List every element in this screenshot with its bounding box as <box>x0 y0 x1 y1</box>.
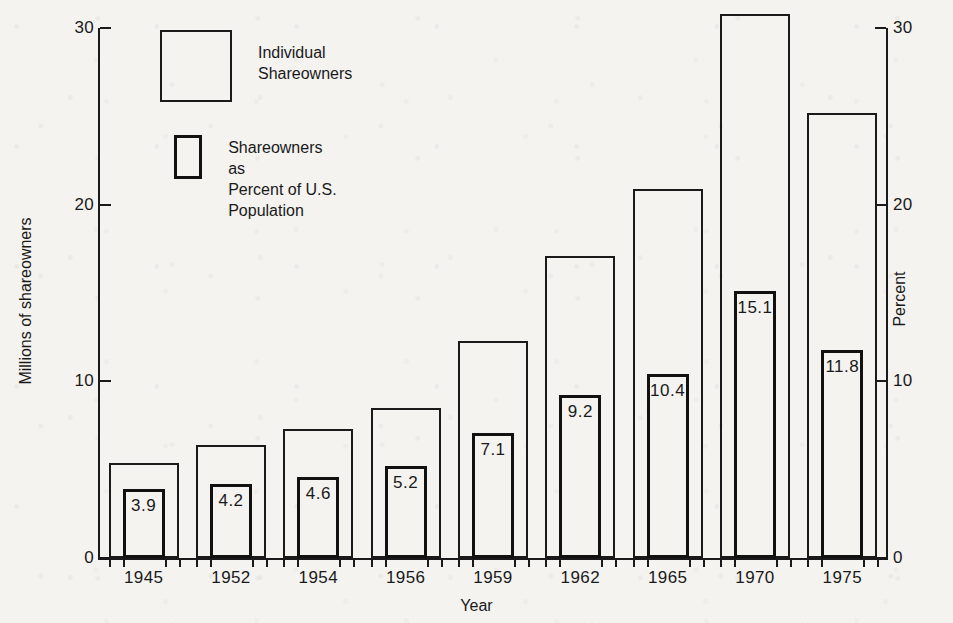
x-axis-tick <box>109 558 111 567</box>
x-axis-tick <box>385 558 387 567</box>
bar-shareowners-percent <box>821 350 863 558</box>
y-axis-left-tick <box>100 204 111 206</box>
y-axis-left-title: Millions of shareowners <box>17 201 35 401</box>
x-axis-tick <box>559 558 561 567</box>
legend-label-individual-shareowners: Individual Shareowners <box>258 30 352 84</box>
x-axis-category-label: 1956 <box>361 568 451 588</box>
legend-item-shareowners-percent: Shareowners as Percent of U.S. Populatio… <box>160 135 338 221</box>
y-axis-left-tick-label: 0 <box>60 549 94 566</box>
y-axis-right-title: Percent <box>891 239 909 359</box>
x-axis-tick <box>179 558 181 567</box>
bar-value-label: 10.4 <box>634 381 702 401</box>
x-axis-title: Year <box>0 597 953 615</box>
bar-value-label: 4.2 <box>197 491 265 511</box>
x-axis-category-label: 1970 <box>710 568 800 588</box>
y-axis-right-tick-label: 10 <box>893 372 913 389</box>
x-axis-tick <box>458 558 460 567</box>
y-axis-left-tick-label: 30 <box>60 19 94 36</box>
x-axis-tick <box>790 558 792 567</box>
y-axis-right-tick <box>875 27 886 29</box>
x-axis-category-label: 1954 <box>273 568 363 588</box>
y-axis-left-tick-label: 20 <box>60 196 94 213</box>
legend-item-individual-shareowners: Individual Shareowners <box>160 30 352 102</box>
x-axis-tick <box>472 558 474 567</box>
x-axis-category-label: 1959 <box>448 568 538 588</box>
x-axis-tick <box>427 558 429 567</box>
x-axis-tick <box>266 558 268 567</box>
x-axis-tick <box>210 558 212 567</box>
y-axis-left-tick-label: 10 <box>60 372 94 389</box>
y-axis-right-tick-label: 20 <box>893 196 913 213</box>
x-axis-tick <box>647 558 649 567</box>
y-axis-left-line <box>98 28 100 560</box>
x-axis-category-label: 1945 <box>99 568 189 588</box>
x-axis-tick <box>734 558 736 567</box>
bar-value-label: 11.8 <box>808 357 876 377</box>
x-axis-tick <box>353 558 355 567</box>
x-axis-line <box>98 558 888 560</box>
legend-swatch-icon-shareowners-percent <box>174 135 202 179</box>
x-axis-tick <box>720 558 722 567</box>
x-axis-tick <box>703 558 705 567</box>
y-axis-left-tick <box>100 380 111 382</box>
x-axis-category-label: 1975 <box>797 568 887 588</box>
bar-chart: Millions of shareowners Percent Year 010… <box>0 0 953 623</box>
x-axis-tick <box>877 558 879 567</box>
x-axis-tick <box>615 558 617 567</box>
x-axis-tick <box>807 558 809 567</box>
y-axis-right-line <box>886 28 888 560</box>
x-axis-tick <box>123 558 125 567</box>
x-axis-tick <box>441 558 443 567</box>
bar-shareowners-percent <box>734 291 776 558</box>
bar-shareowners-percent <box>647 374 689 558</box>
bar-value-label: 15.1 <box>721 298 789 318</box>
x-axis-tick <box>863 558 865 567</box>
x-axis-tick <box>776 558 778 567</box>
legend-label-shareowners-percent: Shareowners as Percent of U.S. Populatio… <box>228 135 338 221</box>
x-axis-tick <box>514 558 516 567</box>
x-axis-category-label: 1965 <box>623 568 713 588</box>
bar-value-label: 3.9 <box>110 496 178 516</box>
x-axis-tick <box>297 558 299 567</box>
y-axis-right-tick-label: 30 <box>893 19 913 36</box>
bar-value-label: 9.2 <box>546 402 614 422</box>
x-axis-tick <box>165 558 167 567</box>
bar-value-label: 4.6 <box>284 484 352 504</box>
bar-value-label: 5.2 <box>372 473 440 493</box>
x-axis-tick <box>252 558 254 567</box>
x-axis-tick <box>528 558 530 567</box>
x-axis-tick <box>689 558 691 567</box>
bar-value-label: 7.1 <box>459 440 527 460</box>
x-axis-category-label: 1952 <box>186 568 276 588</box>
legend-swatch-icon-individual-shareowners <box>160 30 232 102</box>
x-axis-tick <box>821 558 823 567</box>
x-axis-tick <box>371 558 373 567</box>
y-axis-left-tick <box>100 27 111 29</box>
x-axis-tick <box>545 558 547 567</box>
x-axis-tick <box>339 558 341 567</box>
x-axis-tick <box>601 558 603 567</box>
x-axis-tick <box>283 558 285 567</box>
x-axis-tick <box>196 558 198 567</box>
x-axis-category-label: 1962 <box>535 568 625 588</box>
y-axis-right-tick-label: 0 <box>893 549 903 566</box>
x-axis-tick <box>633 558 635 567</box>
